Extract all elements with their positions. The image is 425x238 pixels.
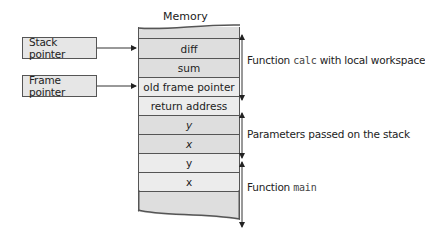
code-text: calc <box>293 55 316 66</box>
code-text: main <box>293 182 316 193</box>
label-text: Function <box>247 54 293 66</box>
main-bracket-label: Function main <box>247 181 317 193</box>
label-text: with local workspace <box>317 54 425 66</box>
calc-bracket-label: Function calc with local workspace <box>247 54 425 66</box>
memory-wavy-top <box>138 25 240 29</box>
params-bracket-label: Parameters passed on the stack <box>247 128 410 140</box>
label-text: Function <box>247 181 293 193</box>
label-text: Parameters passed on the stack <box>247 128 410 140</box>
